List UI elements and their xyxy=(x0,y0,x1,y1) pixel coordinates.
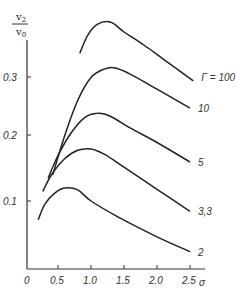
curve-labels: Γ = 1001053,32 xyxy=(197,72,236,258)
y-tick-label: 0.2 xyxy=(3,130,17,141)
y-tick-label: 0.1 xyxy=(3,196,17,207)
x-tick-label: 0.5 xyxy=(50,275,64,286)
curve-label: 5 xyxy=(198,157,204,168)
y-tick-label: 0.3 xyxy=(3,72,17,83)
x-tick-label: 0 xyxy=(24,275,30,286)
x-tick-label: 1.5 xyxy=(116,275,130,286)
x-tick-label: 2.5 xyxy=(181,275,196,286)
curve-10 xyxy=(53,67,190,175)
curve-label: 10 xyxy=(198,103,210,114)
chart: 00.51.01.52.02.5 0.10.20.3 v2 v0 σ Γ = 1… xyxy=(0,0,236,292)
y-label-numerator: v2 xyxy=(15,11,26,24)
y-axis-label: v2 v0 xyxy=(12,11,28,39)
curve-label: 3,3 xyxy=(198,206,212,217)
curves xyxy=(38,22,193,252)
curve-label: Γ = 100 xyxy=(201,72,235,83)
curve-2 xyxy=(38,188,190,252)
x-tick-label: 1.0 xyxy=(83,275,97,286)
x-ticks: 00.51.01.52.02.5 xyxy=(24,265,196,286)
curve-33 xyxy=(43,149,190,212)
x-tick-label: 2.0 xyxy=(148,275,163,286)
y-label-denominator: v0 xyxy=(15,26,26,39)
x-axis-label: σ xyxy=(199,277,206,288)
curve-label: 2 xyxy=(197,247,204,258)
